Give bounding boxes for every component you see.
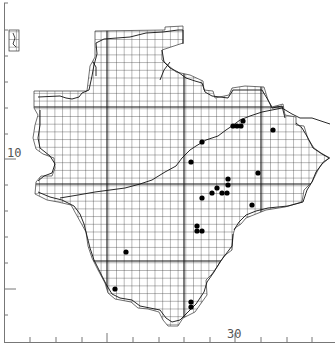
record-dot — [188, 304, 193, 309]
record-dot — [270, 127, 275, 132]
record-dot — [199, 195, 204, 200]
distribution-map — [0, 0, 335, 345]
x-axis-label: 30 — [227, 327, 241, 341]
record-dot — [188, 299, 193, 304]
record-dot — [249, 202, 254, 207]
record-dot — [199, 228, 204, 233]
record-dot — [199, 139, 204, 144]
record-dot — [123, 249, 128, 254]
record-dot — [112, 286, 117, 291]
x-axis-ticks — [30, 333, 312, 343]
record-dot — [225, 182, 230, 187]
record-dot — [225, 176, 230, 181]
record-dot — [194, 228, 199, 233]
county-grid — [0, 0, 335, 345]
record-dot — [188, 159, 193, 164]
record-dot — [240, 118, 245, 123]
record-dot — [255, 170, 260, 175]
record-dot — [219, 190, 224, 195]
record-dot — [194, 223, 199, 228]
record-dot — [214, 185, 219, 190]
record-dot — [238, 123, 243, 128]
y-axis-label: 10 — [7, 146, 21, 160]
record-dot — [209, 190, 214, 195]
island-inset — [9, 30, 19, 51]
record-dot — [224, 190, 229, 195]
